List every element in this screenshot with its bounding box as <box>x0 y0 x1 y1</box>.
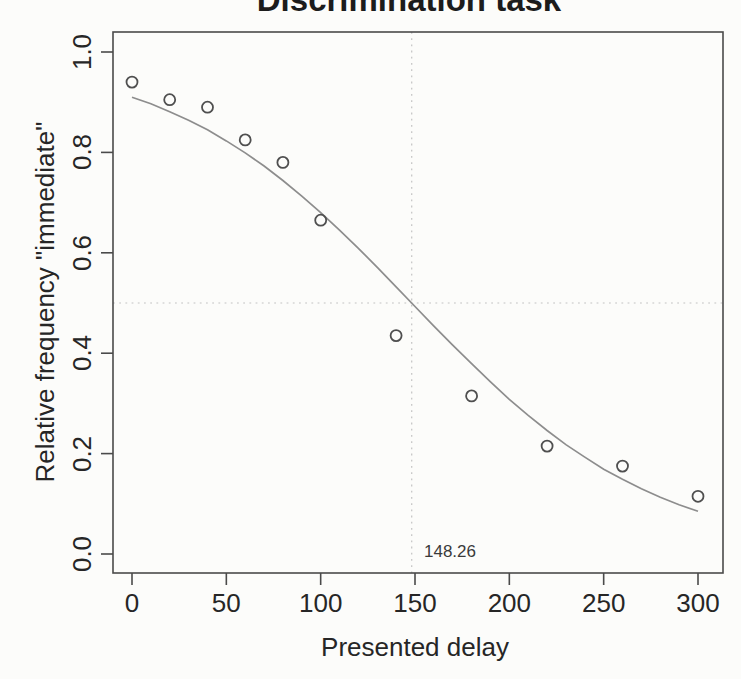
data-point <box>693 491 704 502</box>
y-tick-label: 0.4 <box>69 335 95 371</box>
x-tick-label: 300 <box>676 590 719 616</box>
x-tick-label: 250 <box>582 590 625 616</box>
data-point <box>164 94 175 105</box>
y-tick-label: 0.0 <box>69 536 95 572</box>
y-tick-label: 1.0 <box>69 34 95 70</box>
plot-area <box>0 0 741 679</box>
y-tick-label: 0.2 <box>69 436 95 472</box>
x-tick-label: 50 <box>212 590 241 616</box>
x-tick-label: 150 <box>393 590 436 616</box>
x-tick-label: 200 <box>488 590 531 616</box>
y-axis-label: Relative frequency "immediate" <box>32 122 58 483</box>
data-point <box>617 461 628 472</box>
data-point <box>315 215 326 226</box>
x-axis-label: Presented delay <box>321 634 509 660</box>
data-point <box>466 390 477 401</box>
data-point <box>127 77 138 88</box>
x-tick-label: 100 <box>299 590 342 616</box>
data-point <box>542 441 553 452</box>
data-point <box>240 134 251 145</box>
psychometric-chart: Discrimination task Relative frequency "… <box>0 0 741 679</box>
threshold-annotation: 148.26 <box>424 543 476 560</box>
y-tick-label: 0.8 <box>69 134 95 170</box>
fitted-curve <box>132 97 698 511</box>
x-tick-label: 0 <box>125 590 139 616</box>
data-point <box>391 330 402 341</box>
data-point <box>277 157 288 168</box>
y-tick-label: 0.6 <box>69 235 95 271</box>
data-point <box>202 102 213 113</box>
